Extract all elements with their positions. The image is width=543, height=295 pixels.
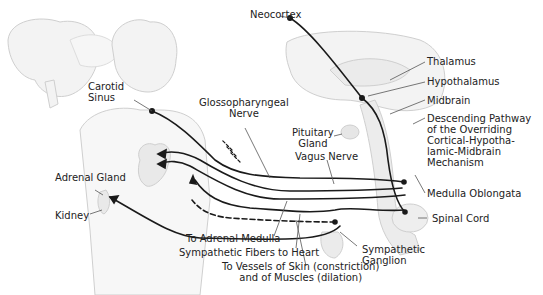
label-adrenal-gland: Adrenal Gland xyxy=(55,172,126,183)
label-kidney: Kidney xyxy=(55,210,89,221)
glossopharyngeal-line-2: Nerve xyxy=(199,108,289,119)
label-sympathetic-fibers-heart: Sympathetic Fibers to Heart xyxy=(179,247,319,258)
carotid-line-2: Sinus xyxy=(88,92,124,103)
label-medulla-oblongata: Medulla Oblongata xyxy=(427,188,521,199)
pituitary-line-2: Gland xyxy=(292,138,334,149)
leader-descending xyxy=(413,118,425,124)
pituitary-sketch xyxy=(341,125,359,139)
node-dot xyxy=(360,96,364,100)
label-to-adrenal-medulla: To Adrenal Medulla xyxy=(186,233,280,244)
glossopharyngeal-line-1: Glossopharyngeal xyxy=(199,97,289,108)
ganglion-line-2: Ganglion xyxy=(362,255,425,266)
label-hypothalamus: Hypothalamus xyxy=(427,76,500,87)
leader-vessels xyxy=(296,220,306,266)
leader-adrenal-medulla xyxy=(274,201,287,236)
label-thalamus: Thalamus xyxy=(427,56,476,67)
ganglion-sketch xyxy=(321,232,343,258)
vessels-line-1: To Vessels of Skin (constriction) xyxy=(222,261,379,272)
carotid-line-1: Carotid xyxy=(88,81,124,92)
label-midbrain: Midbrain xyxy=(427,95,470,106)
label-spinal-cord: Spinal Cord xyxy=(432,213,489,224)
leader-vagus xyxy=(327,160,334,184)
label-sympathetic-ganglion: Sympathetic Ganglion xyxy=(362,244,425,266)
descending-line-2: of the Overriding xyxy=(427,124,531,135)
leader-glossopharyngeal xyxy=(245,128,270,178)
pituitary-line-1: Pituitary xyxy=(292,127,334,138)
label-pituitary-gland: Pituitary Gland xyxy=(292,127,334,149)
diagram-stage: Neocortex Thalamus Hypothalamus Midbrain… xyxy=(0,0,543,295)
leader-pituitary xyxy=(334,134,342,136)
label-carotid-sinus: Carotid Sinus xyxy=(88,81,124,103)
descending-line-5: Mechanism xyxy=(427,157,531,168)
node-dot xyxy=(403,210,407,214)
node-dot xyxy=(333,220,337,224)
vessel-arrows-icon xyxy=(222,140,240,162)
descending-line-1: Descending Pathway xyxy=(427,113,531,124)
leader-medulla xyxy=(415,175,425,193)
label-neocortex: Neocortex xyxy=(250,9,301,20)
ganglion-line-1: Sympathetic xyxy=(362,244,425,255)
label-glossopharyngeal-nerve: Glossopharyngeal Nerve xyxy=(199,97,289,119)
label-descending-pathway: Descending Pathway of the Overriding Cor… xyxy=(427,113,531,168)
vessels-line-2: and of Muscles (dilation) xyxy=(222,272,379,283)
label-to-vessels: To Vessels of Skin (constriction) and of… xyxy=(222,261,379,283)
descending-line-3: Cortical-Hypotha- xyxy=(427,135,531,146)
label-vagus-nerve: Vagus Nerve xyxy=(295,151,358,162)
node-dot xyxy=(402,180,406,184)
descending-line-4: lamic-Midbrain xyxy=(427,146,531,157)
